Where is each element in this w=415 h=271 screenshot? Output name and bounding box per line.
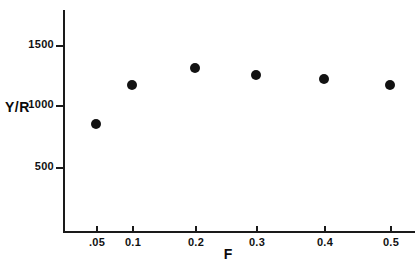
x-tick-2 (195, 226, 197, 232)
y-tick-label-500: 500 (14, 161, 54, 172)
y-axis-line (63, 10, 65, 233)
data-point (190, 63, 200, 73)
y-tick-label-500-wrap: 500 (10, 161, 54, 173)
x-tick-label-5: 0.5 (369, 236, 413, 248)
x-axis-line (63, 231, 415, 233)
x-tick-0 (96, 226, 98, 232)
x-tick-label-1: 0.1 (111, 236, 155, 248)
y-tick-1500 (56, 45, 64, 47)
x-tick-5 (390, 226, 392, 232)
y-tick-label-1500-wrap: 1500 (10, 39, 54, 51)
x-tick-1 (132, 226, 134, 232)
y-tick-label-1500: 1500 (14, 39, 54, 50)
data-point (251, 70, 261, 80)
y-tick-1000 (56, 105, 64, 107)
y-axis-title: Y/R (5, 100, 30, 115)
x-axis-title: F (208, 247, 248, 262)
x-tick-4 (324, 226, 326, 232)
x-tick-label-4: 0.4 (303, 236, 347, 248)
x-tick-3 (256, 226, 258, 232)
data-point (385, 80, 395, 90)
scatter-plot-figure: 1500 1000 500 .05 0.1 0.2 0.3 0.4 0.5 Y/… (0, 0, 415, 271)
y-tick-500 (56, 167, 64, 169)
data-point (319, 74, 329, 84)
data-point (91, 119, 101, 129)
data-point (127, 80, 137, 90)
